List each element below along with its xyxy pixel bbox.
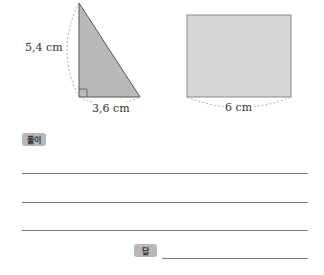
triangle-height-label: 5,4 cm [25, 41, 63, 54]
solution-line-3[interactable] [22, 230, 308, 231]
rectangle-width-label: 6 cm [225, 101, 252, 114]
solution-line-1[interactable] [22, 173, 308, 174]
figures-area [0, 0, 324, 120]
right-triangle [67, 3, 140, 105]
answer-badge: 답 [134, 244, 157, 257]
height-dimension-arc [67, 3, 79, 97]
triangle-base-label: 3,6 cm [92, 102, 130, 115]
solution-line-2[interactable] [22, 202, 308, 203]
rectangle-shape [187, 15, 291, 108]
solution-badge: 풀이 [22, 133, 46, 146]
answer-line[interactable] [162, 258, 308, 259]
